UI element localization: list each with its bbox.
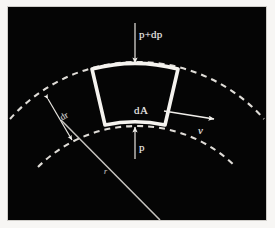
pressure-outer-label: p+dp — [139, 29, 163, 40]
velocity-arrow — [164, 111, 214, 119]
radius-line — [61, 120, 160, 220]
figure-frame: p+dp dA v p dr r — [0, 0, 275, 228]
velocity-label: v — [198, 125, 203, 136]
radius-label: r — [104, 168, 107, 176]
figure-plate: p+dp dA v p dr r — [8, 7, 266, 220]
radial-thickness-dimension — [48, 99, 72, 140]
pressure-inner-label: p — [139, 142, 145, 153]
area-label: dA — [134, 105, 148, 116]
